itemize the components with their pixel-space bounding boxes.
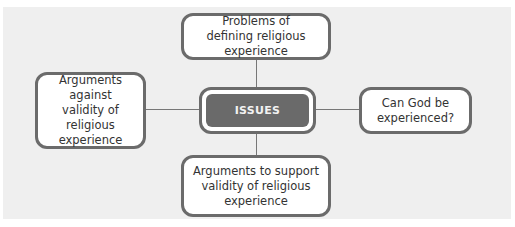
node-right-label: Can God be experienced? xyxy=(376,96,456,126)
node-top-label: Problems of defining religious experienc… xyxy=(197,14,315,59)
node-right: Can God be experienced? xyxy=(359,87,472,134)
node-left: Arguments against validity of religious … xyxy=(35,72,146,149)
node-bottom: Arguments to support validity of religio… xyxy=(181,155,331,217)
connector-left xyxy=(145,109,200,110)
connector-bottom xyxy=(256,134,257,156)
node-bottom-label: Arguments to support validity of religio… xyxy=(192,164,320,209)
central-node: ISSUES xyxy=(199,87,316,134)
node-top: Problems of defining religious experienc… xyxy=(181,13,331,60)
node-left-label: Arguments against validity of religious … xyxy=(48,73,134,148)
connector-top xyxy=(256,59,257,88)
central-node-label: ISSUES xyxy=(206,94,309,127)
connector-right xyxy=(315,109,360,110)
